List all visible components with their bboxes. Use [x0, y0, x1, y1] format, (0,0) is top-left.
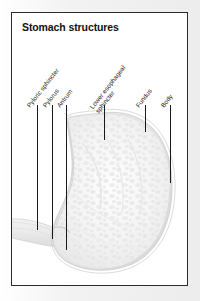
leader-line-fundus	[145, 105, 146, 132]
gastric-rugae-texture	[52, 109, 178, 277]
figure-frame: Stomach structures	[11, 12, 188, 286]
stomach-anatomy-illustration	[12, 13, 188, 285]
leader-line-pylorus	[52, 105, 53, 239]
leader-line-lower-esophageal-sphincter	[104, 105, 105, 140]
leader-line-pyloric-sphincter	[37, 105, 38, 230]
figure-root: Stomach structures	[0, 0, 200, 301]
leader-line-body	[170, 105, 171, 183]
leader-line-antrum	[66, 105, 67, 250]
